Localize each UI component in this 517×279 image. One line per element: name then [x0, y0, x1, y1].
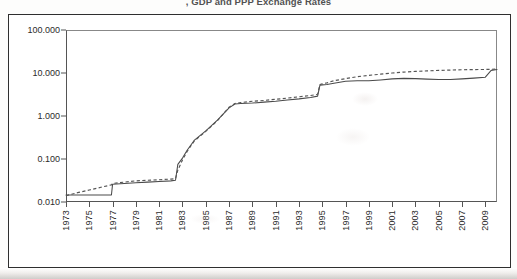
x-tick-mark [113, 202, 114, 207]
x-tick-mark [206, 202, 207, 207]
x-tick-label: 2001 [387, 210, 397, 231]
x-tick-mark [159, 202, 160, 207]
x-tick-mark [136, 202, 137, 207]
x-tick-mark [229, 202, 230, 207]
x-tick-label: 1977 [108, 210, 118, 231]
plot-area [66, 30, 497, 202]
y-axis-labels: 100.000 10.000 1.000 0.100 0.010 [0, 0, 60, 279]
x-tick-mark [89, 202, 90, 207]
x-tick-label: 2009 [480, 210, 490, 231]
x-tick-label: 1997 [341, 210, 351, 231]
x-tick-mark [322, 202, 323, 207]
x-tick-mark [252, 202, 253, 207]
y-tick-label: 100.000 [27, 25, 60, 35]
x-tick-mark [182, 202, 183, 207]
x-tick-mark [392, 202, 393, 207]
x-tick-label: 1985 [201, 210, 211, 231]
x-tick-mark [299, 202, 300, 207]
x-tick-mark [276, 202, 277, 207]
chart-title: , GDP and PPP Exchange Rates [0, 0, 517, 7]
x-tick-label: 1993 [294, 210, 304, 231]
x-tick-label: 1979 [131, 210, 141, 231]
x-tick-mark [415, 202, 416, 207]
x-tick-label: 1983 [177, 210, 187, 231]
x-tick-label: 1995 [317, 210, 327, 231]
x-tick-mark [369, 202, 370, 207]
x-tick-label: 1975 [84, 210, 94, 231]
chart-page: , GDP and PPP Exchange Rates 100.000 10.… [0, 0, 517, 279]
x-tick-label: 1999 [364, 210, 374, 231]
x-tick-label: 1981 [154, 210, 164, 231]
x-tick-mark [485, 202, 486, 207]
x-tick-label: 1987 [224, 210, 234, 231]
y-tick-label: 10.000 [32, 68, 60, 78]
x-tick-mark [66, 202, 67, 207]
y-tick-label: 0.010 [37, 197, 60, 207]
scan-edge-shadow [0, 268, 517, 279]
y-tick-label: 0.100 [37, 154, 60, 164]
x-tick-label: 1973 [61, 210, 71, 231]
x-tick-label: 2003 [410, 210, 420, 231]
x-tick-mark [462, 202, 463, 207]
x-tick-label: 2007 [457, 210, 467, 231]
y-tick-label: 1.000 [37, 111, 60, 121]
x-tick-label: 1989 [247, 210, 257, 231]
x-tick-label: 1991 [271, 210, 281, 231]
x-tick-mark [439, 202, 440, 207]
x-tick-mark [346, 202, 347, 207]
x-tick-label: 2005 [434, 210, 444, 231]
